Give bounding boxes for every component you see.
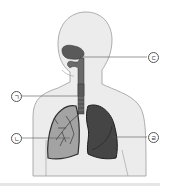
label-rieul: ㄹ: [148, 132, 159, 143]
bottom-divider: [0, 183, 160, 186]
label-nieun: ㄴ: [11, 133, 22, 144]
trachea: [78, 84, 84, 114]
label-digeut: ㄷ: [148, 52, 159, 63]
respiratory-diagram: [0, 0, 172, 192]
label-giyeok: ㄱ: [11, 91, 22, 102]
